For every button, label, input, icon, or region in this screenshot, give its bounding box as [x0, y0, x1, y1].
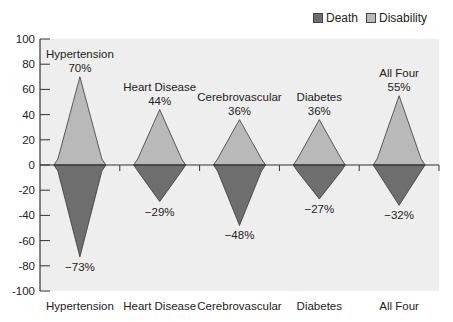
y-tick-label: 80: [22, 58, 35, 70]
y-tick-label: 60: [22, 83, 35, 95]
y-tick-label: 100: [16, 33, 35, 45]
legend-label-disability: Disability: [379, 11, 427, 25]
y-tick-label: 40: [22, 109, 35, 121]
x-tick-label: All Four: [379, 300, 419, 312]
disability-value-label: 55%: [388, 81, 411, 93]
death-value-label: −29%: [145, 206, 175, 218]
legend-label-death: Death: [326, 11, 358, 25]
chart: 100806040200-20-40-60-80-100Hypertension…: [0, 0, 453, 322]
disability-value-label: 44%: [148, 95, 171, 107]
annotation-label: Hypertension: [46, 48, 114, 60]
legend-item-death: Death: [313, 11, 358, 25]
legend-swatch-death: [313, 13, 323, 23]
legend: Death Disability: [313, 11, 435, 25]
legend-swatch-disability: [366, 13, 376, 23]
y-tick-label: -60: [18, 235, 35, 247]
death-value-label: −32%: [384, 209, 414, 221]
y-tick-label: 20: [22, 134, 35, 146]
legend-item-disability: Disability: [366, 11, 427, 25]
annotation-label: All Four: [379, 67, 419, 79]
y-tick-label: 0: [29, 159, 35, 171]
annotation-label: Heart Disease: [123, 81, 196, 93]
chart-plot: 100806040200-20-40-60-80-100Hypertension…: [0, 0, 453, 322]
annotation-label: Cerebrovascular: [197, 91, 282, 103]
x-tick-label: Hypertension: [46, 300, 114, 312]
annotation-label: Diabetes: [297, 91, 343, 103]
y-tick-label: -20: [18, 184, 35, 196]
x-tick-label: Heart Disease: [123, 300, 196, 312]
disability-value-label: 36%: [308, 105, 331, 117]
x-tick-label: Cerebrovascular: [197, 300, 282, 312]
death-value-label: −73%: [65, 261, 95, 273]
disability-value-label: 70%: [68, 62, 91, 74]
y-tick-label: -100: [12, 285, 35, 297]
y-tick-label: -40: [18, 209, 35, 221]
death-value-label: −48%: [225, 229, 255, 241]
death-value-label: −27%: [304, 203, 334, 215]
x-tick-label: Diabetes: [297, 300, 343, 312]
disability-value-label: 36%: [228, 105, 251, 117]
y-tick-label: -80: [18, 260, 35, 272]
